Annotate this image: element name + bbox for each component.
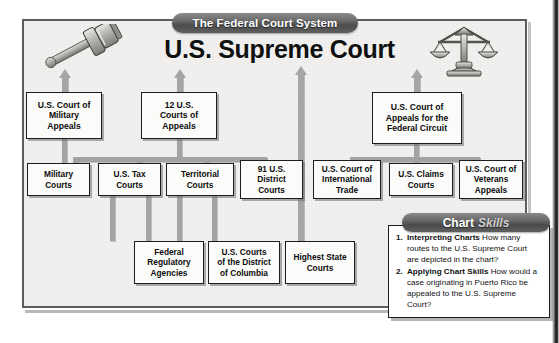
page-title: U.S. Supreme Court — [0, 35, 559, 64]
node-military-courts[interactable]: MilitaryCourts — [27, 163, 90, 196]
node-regulatory-agencies[interactable]: FederalRegulatoryAgencies — [134, 241, 204, 284]
node-veterans-appeals-label: U.S. Court ofVeteransAppeals — [464, 164, 519, 194]
node-tax-courts[interactable]: U.S. TaxCourts — [98, 163, 161, 196]
arrow-highest-state-to-supreme — [291, 66, 310, 243]
chart-skills-tab: Chart Skills — [402, 213, 550, 232]
question-1-number: 1. — [396, 233, 407, 265]
connector-appeals-down — [177, 139, 182, 157]
node-courts-of-appeals-label: 12 U.S.Courts ofAppeals — [158, 100, 200, 131]
node-dc-courts-label: U.S. Courtsof the Districtof Columbia — [215, 247, 272, 277]
connector-appeals-bus — [73, 157, 267, 162]
node-international-trade-label: U.S. Court ofInternationalTrade — [320, 164, 375, 194]
node-tax-courts-label: U.S. TaxCourts — [111, 169, 147, 189]
chart-skills-tab-italic: Skills — [478, 216, 509, 230]
chart-skills-question-1: 1. Interpreting Charts How many routes t… — [396, 233, 541, 265]
chart-skills-question-2: 2. Applying Chart Skills How would a cas… — [396, 267, 541, 310]
node-federal-circuit-label: U.S. Court ofAppeals for theFederal Circ… — [384, 102, 451, 133]
node-district-courts-label: 91 U.S.DistrictCourts — [255, 164, 288, 194]
node-regulatory-agencies-label: FederalRegulatoryAgencies — [145, 247, 192, 277]
question-1-text: Interpreting Charts How many routes to t… — [407, 233, 541, 265]
arrow-appeals-to-supreme — [170, 69, 189, 93]
node-territorial-courts-label: TerritorialCourts — [179, 169, 221, 189]
chart-skills-panel: 1. Interpreting Charts How many routes t… — [388, 225, 550, 318]
node-claims-courts[interactable]: U.S. ClaimsCourts — [389, 163, 453, 196]
node-dc-courts[interactable]: U.S. Courtsof the Districtof Columbia — [208, 241, 280, 284]
node-highest-state-courts[interactable]: Highest StateCourts — [285, 241, 355, 284]
node-military-appeals-label: U.S. Court ofMilitaryAppeals — [36, 100, 93, 131]
node-courts-of-appeals[interactable]: 12 U.S.Courts ofAppeals — [141, 92, 217, 139]
connector-territorial-down — [146, 196, 151, 241]
question-2-text: Applying Chart Skills How would a case o… — [407, 267, 541, 310]
supreme-court-heading: U.S. Supreme Court — [164, 35, 395, 63]
node-highest-state-courts-label: Highest StateCourts — [291, 252, 348, 272]
connector-district-down — [212, 196, 217, 241]
question-2-number: 2. — [396, 267, 407, 310]
node-claims-courts-label: U.S. ClaimsCourts — [396, 169, 446, 189]
connector-federal-circuit-down — [414, 144, 419, 157]
court-system-chart-page: The Federal Court System U.S. Supreme Co… — [0, 0, 559, 343]
node-veterans-appeals[interactable]: U.S. Court ofVeteransAppeals — [459, 160, 523, 199]
node-federal-circuit[interactable]: U.S. Court ofAppeals for theFederal Circ… — [372, 92, 462, 144]
connector-military-appeals-down — [62, 139, 67, 163]
node-military-courts-label: MilitaryCourts — [42, 169, 75, 189]
chart-title-banner: The Federal Court System — [172, 13, 358, 33]
node-international-trade[interactable]: U.S. Court ofInternationalTrade — [313, 160, 381, 199]
node-district-courts[interactable]: 91 U.S.DistrictCourts — [240, 160, 303, 199]
chart-title-text: The Federal Court System — [193, 17, 338, 29]
chart-skills-tab-bold: Chart — [443, 216, 474, 230]
node-territorial-courts[interactable]: TerritorialCourts — [166, 163, 234, 196]
node-military-appeals[interactable]: U.S. Court ofMilitaryAppeals — [26, 92, 102, 139]
question-1-bold: Interpreting Charts — [407, 233, 480, 242]
question-2-bold: Applying Chart Skills — [407, 267, 488, 276]
